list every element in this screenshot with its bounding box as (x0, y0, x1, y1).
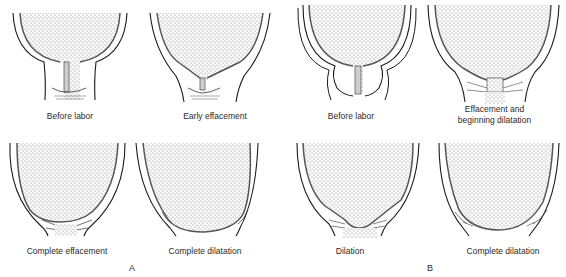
uterus-cervix-illustration (423, 140, 566, 240)
panel-b-complete-dilatation (423, 140, 566, 240)
uterus-cervix-illustration (283, 0, 423, 110)
panel-caption: Dilation (320, 246, 380, 257)
uterus-cervix-illustration (140, 0, 280, 110)
uterus-cervix-illustration (0, 0, 140, 110)
uterus-cervix-illustration (283, 140, 423, 240)
panel-caption: Complete dilatation (448, 246, 558, 257)
uterus-cervix-illustration (0, 140, 140, 240)
panel-caption: Complete dilatation (150, 246, 260, 257)
uterus-cervix-illustration (140, 140, 280, 240)
panel-b-before-labor (283, 0, 423, 110)
group-label-a: A (129, 263, 135, 273)
panel-b-dilation (283, 140, 423, 240)
panel-caption: Before labor (20, 111, 120, 122)
panel-a-early-effacement (140, 0, 280, 110)
panel-a-before-labor (0, 0, 140, 110)
panel-a-complete-effacement (0, 140, 140, 240)
panel-caption: Before labor (301, 111, 401, 122)
group-label-b: B (427, 263, 433, 273)
panel-caption: Effacement and beginning dilatation (423, 104, 566, 126)
uterus-cervix-illustration (423, 0, 566, 110)
panel-caption: Early effacement (150, 111, 280, 122)
panel-a-complete-dilatation (140, 140, 280, 240)
panel-caption: Complete effacement (8, 246, 126, 257)
panel-b-effacement-beginning-dilatation (423, 0, 566, 110)
